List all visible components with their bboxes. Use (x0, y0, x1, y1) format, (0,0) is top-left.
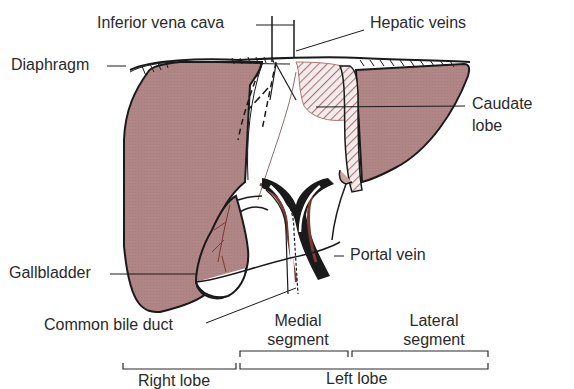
label-caudate-lobe-line2: lobe (472, 117, 502, 135)
label-medial-segment-line1: Medial (258, 312, 338, 330)
label-diaphragm: Diaphragm (11, 56, 89, 74)
label-lateral-segment-line2: segment (384, 331, 484, 349)
label-hepatic-veins: Hepatic veins (370, 14, 466, 32)
label-left-lobe: Left lobe (326, 370, 387, 388)
liver-diagram: Inferior vena cava Hepatic veins Diaphra… (0, 0, 574, 389)
label-common-bile-duct: Common bile duct (44, 316, 173, 334)
label-portal-vein: Portal vein (350, 246, 426, 264)
medial-segment-bracket (240, 351, 348, 357)
label-gallbladder: Gallbladder (9, 264, 91, 282)
left-lateral-lobe-shape (356, 64, 469, 182)
label-medial-segment-line2: segment (258, 331, 338, 349)
label-lateral-segment-line1: Lateral (384, 312, 484, 330)
right-lobe-bracket (123, 363, 236, 369)
portal-vein-shape (262, 178, 334, 280)
left-lobe-bracket (240, 363, 488, 369)
caudate-lobe-shape (296, 62, 346, 120)
lateral-segment-bracket (352, 351, 488, 357)
label-right-lobe: Right lobe (138, 372, 210, 389)
label-caudate-lobe-line1: Caudate (472, 95, 533, 113)
label-inferior-vena-cava: Inferior vena cava (97, 14, 224, 32)
